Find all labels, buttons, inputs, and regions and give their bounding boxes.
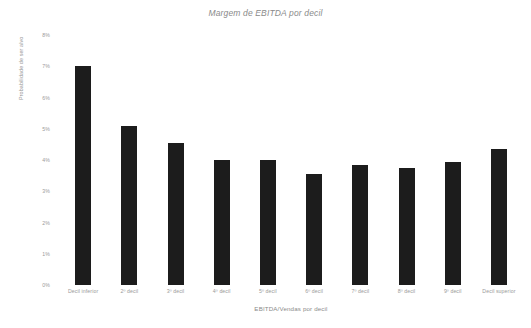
bar-slot bbox=[245, 35, 291, 285]
bar-slot bbox=[337, 35, 383, 285]
x-axis-tick-label: 8º decil bbox=[383, 288, 429, 294]
bar bbox=[445, 162, 461, 285]
bar bbox=[306, 174, 322, 285]
bar bbox=[399, 168, 415, 285]
y-axis-tick-label: 8% bbox=[42, 32, 50, 38]
x-axis-tick-label: 4º decil bbox=[199, 288, 245, 294]
y-axis-tick-label: 6% bbox=[42, 95, 50, 101]
bar bbox=[491, 149, 507, 285]
bar-slot bbox=[106, 35, 152, 285]
bar bbox=[214, 160, 230, 285]
y-axis: 8%7%6%5%4%3%2%1%0% bbox=[0, 35, 56, 285]
x-axis-tick-label: 6º decil bbox=[291, 288, 337, 294]
x-axis-tick-label: 5º decil bbox=[245, 288, 291, 294]
x-axis-tick-label: Decil inferior bbox=[60, 288, 106, 294]
bar-slot bbox=[152, 35, 198, 285]
y-axis-tick-label: 4% bbox=[42, 157, 50, 163]
bar-slot bbox=[291, 35, 337, 285]
x-axis-tick-label: 3º decil bbox=[152, 288, 198, 294]
bar bbox=[168, 143, 184, 285]
y-axis-tick-label: 0% bbox=[42, 282, 50, 288]
x-axis-tick-label: 7º decil bbox=[337, 288, 383, 294]
x-axis-tick-label: 2º decil bbox=[106, 288, 152, 294]
bar-slot bbox=[383, 35, 429, 285]
bar-series bbox=[60, 35, 522, 285]
y-axis-tick-label: 2% bbox=[42, 220, 50, 226]
x-axis-tick-label: Decil superior bbox=[476, 288, 522, 294]
bar bbox=[260, 160, 276, 285]
bar-slot bbox=[430, 35, 476, 285]
plot-area bbox=[60, 35, 522, 285]
y-axis-tick-label: 1% bbox=[42, 251, 50, 257]
y-axis-tick-label: 5% bbox=[42, 126, 50, 132]
bar bbox=[75, 66, 91, 285]
chart-screenshot: Margem de EBITDA por decil 8%7%6%5%4%3%2… bbox=[0, 0, 531, 328]
bar-slot bbox=[199, 35, 245, 285]
bar-slot bbox=[476, 35, 522, 285]
chart-title: Margem de EBITDA por decil bbox=[0, 8, 531, 18]
x-axis-label: EBITDA/Vendas por decil bbox=[60, 305, 522, 312]
bar-slot bbox=[60, 35, 106, 285]
x-axis-tick-label: 9º decil bbox=[430, 288, 476, 294]
y-axis-tick-label: 7% bbox=[42, 63, 50, 69]
bar bbox=[352, 165, 368, 285]
x-axis-tick-labels: Decil inferior2º decil3º decil4º decil5º… bbox=[60, 288, 522, 294]
y-axis-label: Probabilidade de ser alvo bbox=[18, 0, 24, 100]
bar bbox=[121, 126, 137, 285]
y-axis-tick-label: 3% bbox=[42, 188, 50, 194]
